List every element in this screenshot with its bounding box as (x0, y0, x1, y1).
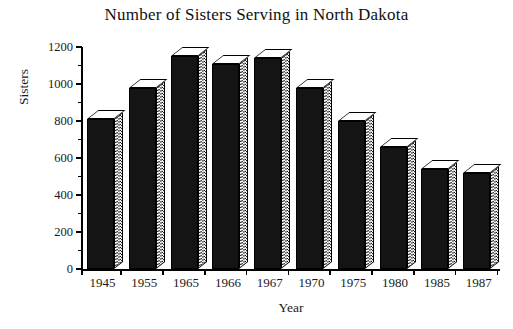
bar-front-face (254, 58, 281, 269)
x-axis-title: Year (82, 300, 500, 316)
x-tick (288, 269, 290, 275)
bar-1966[interactable] (212, 64, 239, 269)
bar-front-face (338, 121, 365, 269)
x-tick-label-1970: 1970 (299, 275, 325, 291)
bar-front-face (171, 56, 198, 269)
y-tick-minor (78, 139, 82, 141)
y-tick-minor (78, 250, 82, 252)
y-tick-label: 400 (39, 189, 73, 202)
bar-front-face (212, 64, 239, 269)
x-tick (162, 269, 164, 275)
bar-1975[interactable] (338, 121, 365, 269)
x-tick (204, 269, 206, 275)
bar-side-face (239, 57, 248, 269)
bar-side-face (490, 166, 499, 269)
x-tick-label-1987: 1987 (466, 275, 492, 291)
bar-1980[interactable] (380, 147, 407, 269)
y-tick-major (76, 157, 82, 159)
bar-front-face (87, 119, 114, 269)
x-tick-label-1965: 1965 (173, 275, 199, 291)
bar-1955[interactable] (129, 88, 156, 269)
x-tick (455, 269, 457, 275)
bar-1945[interactable] (87, 119, 114, 269)
bar-chart: Number of Sisters Serving in North Dakot… (0, 0, 513, 329)
x-tick-label-1985: 1985 (424, 275, 450, 291)
x-tick-label-1975: 1975 (340, 275, 366, 291)
x-axis-line (81, 269, 500, 271)
bar-front-face (380, 147, 407, 269)
bar-1987[interactable] (463, 173, 490, 269)
bar-front-face (296, 88, 323, 269)
y-tick-label: 1000 (39, 78, 73, 91)
bar-side-face (365, 114, 374, 269)
bar-side-face (448, 162, 457, 269)
y-tick-major (76, 120, 82, 122)
bar-side-face (198, 49, 207, 269)
bar-1965[interactable] (171, 56, 198, 269)
y-tick-major (76, 46, 82, 48)
bar-front-face (421, 169, 448, 269)
bar-side-face (323, 81, 332, 269)
y-tick-minor (78, 176, 82, 178)
bar-side-face (407, 140, 416, 269)
chart-title: Number of Sisters Serving in North Dakot… (0, 5, 513, 25)
plot-area: 0200400600800100012001945195519651966196… (82, 47, 500, 269)
bar-1985[interactable] (421, 169, 448, 269)
x-tick-label-1966: 1966 (215, 275, 241, 291)
x-tick (120, 269, 122, 275)
bar-1967[interactable] (254, 58, 281, 269)
y-tick-major (76, 83, 82, 85)
y-tick-label: 200 (39, 226, 73, 239)
x-tick (246, 269, 248, 275)
y-tick-major (76, 231, 82, 233)
x-tick (497, 269, 499, 275)
y-tick-label: 800 (39, 115, 73, 128)
y-axis-title: Sisters (16, 69, 32, 105)
x-tick-label-1967: 1967 (257, 275, 283, 291)
bar-front-face (463, 173, 490, 269)
x-tick (371, 269, 373, 275)
y-tick-minor (78, 102, 82, 104)
y-tick-label: 600 (39, 152, 73, 165)
bar-side-face (114, 112, 123, 269)
y-tick-major (76, 194, 82, 196)
x-tick (329, 269, 331, 275)
bar-1970[interactable] (296, 88, 323, 269)
bar-side-face (281, 51, 290, 269)
bar-side-face (156, 81, 165, 269)
y-tick-minor (78, 65, 82, 67)
x-tick-label-1945: 1945 (90, 275, 116, 291)
x-tick-label-1955: 1955 (131, 275, 157, 291)
x-tick-label-1980: 1980 (382, 275, 408, 291)
x-tick (81, 269, 83, 275)
y-tick-label: 1200 (39, 41, 73, 54)
y-tick-label: 0 (39, 263, 73, 276)
y-tick-minor (78, 213, 82, 215)
x-tick (413, 269, 415, 275)
bar-front-face (129, 88, 156, 269)
